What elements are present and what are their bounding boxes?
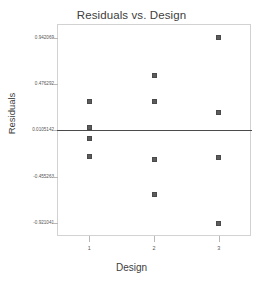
- y-axis-tick-label: 0.476292: [8, 81, 54, 86]
- data-point: [152, 73, 157, 78]
- residuals-scatter-chart: Residuals vs. Design Residuals 0.9420690…: [0, 0, 263, 286]
- data-point: [152, 192, 157, 197]
- y-axis-tick-label: 0.942069: [8, 35, 54, 40]
- data-point: [87, 154, 92, 159]
- y-axis-title: Residuals: [6, 79, 17, 149]
- data-point: [152, 157, 157, 162]
- y-axis-tick-label: -0.455263: [8, 174, 54, 179]
- y-axis-tick-mark: [53, 177, 58, 178]
- data-point: [216, 155, 221, 160]
- x-axis-tick-label: 1: [74, 245, 104, 251]
- x-axis-tick-mark: [154, 236, 155, 242]
- data-point: [87, 99, 92, 104]
- x-axis-tick-label: 3: [204, 245, 234, 251]
- y-axis-tick-label: 0.0105142: [8, 127, 54, 132]
- data-point: [152, 99, 157, 104]
- data-point: [87, 136, 92, 141]
- zero-reference-line: [57, 130, 252, 131]
- data-point: [216, 221, 221, 226]
- x-axis-tick-mark: [219, 236, 220, 242]
- x-axis-tick-mark: [89, 236, 90, 242]
- data-point: [216, 110, 221, 115]
- y-axis-tick-mark: [53, 38, 58, 39]
- y-axis-tick-label: -0.921041: [8, 220, 54, 225]
- y-axis-tick-mark: [53, 84, 58, 85]
- y-axis-tick-mark: [53, 223, 58, 224]
- x-axis-title: Design: [0, 262, 263, 273]
- chart-title: Residuals vs. Design: [0, 9, 263, 21]
- data-point: [216, 35, 221, 40]
- x-axis-tick-label: 2: [139, 245, 169, 251]
